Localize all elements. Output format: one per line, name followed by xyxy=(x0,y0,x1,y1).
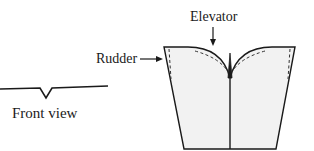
front-view-profile xyxy=(0,86,108,98)
tail-planform xyxy=(164,47,295,149)
elevator-label: Elevator xyxy=(190,10,237,24)
rudder-spike xyxy=(228,53,232,78)
front-view-label: Front view xyxy=(12,106,77,121)
rudder-arrow-icon xyxy=(140,56,163,62)
rudder-label: Rudder xyxy=(96,52,137,66)
diagram-canvas xyxy=(0,0,314,151)
elevator-arrow-icon xyxy=(210,27,216,46)
